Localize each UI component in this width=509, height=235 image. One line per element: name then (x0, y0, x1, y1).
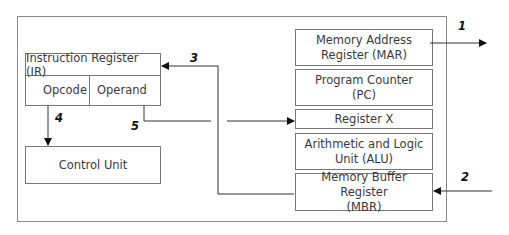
arrow-label-5: 5 (131, 119, 139, 133)
arrow-5-operand-segment (144, 106, 211, 121)
arrow-label-2: 2 (461, 170, 469, 184)
arrow-label-3: 3 (190, 51, 198, 65)
arrow-label-4: 4 (55, 111, 63, 125)
arrow-label-1: 1 (458, 19, 466, 33)
connector-layer (0, 0, 509, 235)
arrow-3-mbr-to-ir (162, 66, 294, 194)
